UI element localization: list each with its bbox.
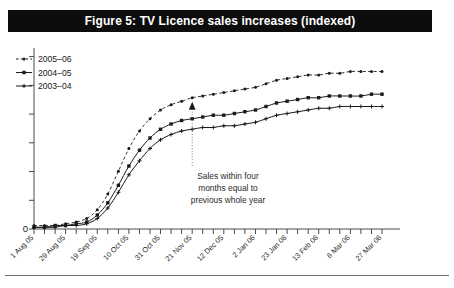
data-point-marker [148,136,151,139]
data-point-marker [306,108,310,112]
data-point-marker [307,96,310,99]
data-point-marker [307,74,310,77]
legend-item-3: 2003–04 [16,81,72,91]
data-point-marker [370,70,373,73]
data-point-marker [233,112,236,115]
data-point-marker [359,70,362,73]
data-point-marker [138,149,141,152]
data-point-marker [348,105,352,109]
data-point-marker [380,105,384,109]
data-point-marker [212,114,215,117]
page-title: Figure 5: TV Licence sales increases (in… [85,14,356,28]
data-point-marker [327,106,331,110]
figure-container: Figure 5: TV Licence sales increases (in… [0,0,454,288]
data-point-marker [328,72,331,75]
data-point-marker [317,74,320,77]
data-point-marker [106,201,109,204]
annotation-line-3: previous whole year [191,195,266,205]
x-axis-tick-label: 29 Aug 05 [37,233,67,263]
y-axis-ticks [29,57,34,229]
data-point-marker [222,114,225,117]
legend-item-1: 2005–06 [16,54,72,64]
data-point-marker [201,115,204,118]
data-point-marker [211,126,215,130]
series-layer [32,70,384,229]
data-point-marker [212,93,215,96]
data-point-marker [317,96,320,99]
data-point-marker [275,79,278,82]
data-point-marker [180,129,184,133]
x-axis-tick-label: 10 Oct 05 [101,233,130,262]
data-point-marker [127,147,130,150]
annotation-text-group: Sales within four months equal to previo… [191,171,266,205]
data-point-marker [359,94,362,97]
chart-legend: 2005–062004–052003–04 [16,54,72,91]
data-point-marker [286,77,289,80]
data-point-marker [169,122,172,125]
data-point-marker [222,124,226,128]
data-point-marker [275,101,278,104]
x-axis-tick-label: 6 Mar 06 [325,233,352,260]
x-axis-tick-label: 23 Jan 06 [259,233,288,262]
data-point-marker [285,100,288,103]
data-point-marker [349,70,352,73]
x-axis-tick-label: 19 Sep 05 [69,233,99,263]
data-point-marker [296,75,299,78]
data-point-marker [349,94,352,97]
callout-arrow-icon [189,102,196,110]
x-axis-tick-label: 13 Feb 06 [290,233,320,263]
data-point-marker [275,113,279,117]
y-axis-zero-label: 0 [23,223,28,234]
data-point-marker [201,126,205,130]
data-point-marker [138,130,141,133]
data-point-marker [264,105,267,108]
data-point-marker [370,105,374,109]
annotation-line-2: months equal to [198,183,258,193]
data-point-marker [127,164,130,167]
data-point-marker [285,112,289,116]
axis-group: 0 [23,48,400,234]
data-point-marker [380,93,383,96]
data-point-marker [96,208,99,211]
data-point-marker [254,108,257,111]
x-axis-tick-label: 21 Nov 05 [163,233,193,263]
annotation-line-1: Sales within four [197,171,259,181]
data-point-marker [328,94,331,97]
series-2 [32,93,383,230]
data-point-marker [254,120,258,124]
data-point-marker [233,89,236,92]
data-point-marker [170,103,173,106]
data-point-marker [254,86,257,89]
data-point-marker [106,193,109,196]
data-point-marker [85,217,88,220]
x-axis-tick-label: 31 Oct 05 [133,233,162,262]
data-point-marker [23,58,26,61]
data-point-marker [96,213,99,216]
series-line [34,94,382,227]
legend-label: 2004–05 [38,68,72,78]
x-axis-ticks [34,229,382,234]
data-point-marker [232,124,236,128]
legend-label: 2003–04 [38,81,72,91]
series-line [34,106,382,227]
x-axis-tick-label: 27 Mar 06 [354,233,384,263]
data-point-marker [370,93,373,96]
data-point-marker [117,184,120,187]
x-axis-tick-label: 2 Jan 06 [230,233,256,259]
x-axis-tick-labels: 1 Aug 0529 Aug 0519 Sep 0510 Oct 0531 Oc… [8,233,383,263]
data-point-marker [159,128,162,131]
data-point-marker [149,117,152,120]
series-3 [32,105,384,230]
data-point-marker [22,84,26,88]
data-point-marker [338,105,342,109]
data-point-marker [180,100,183,103]
data-point-marker [296,98,299,101]
chart-canvas: 0 1 Aug 0529 Aug 0519 Sep 0510 Oct 0531 … [0,32,454,276]
data-point-marker [317,106,321,110]
data-point-marker [338,94,341,97]
line-chart: 0 1 Aug 0529 Aug 0519 Sep 0510 Oct 0531 … [0,32,454,276]
data-point-marker [296,110,300,114]
footer-divider [5,275,449,276]
data-point-marker [264,117,268,121]
data-point-marker [243,88,246,91]
